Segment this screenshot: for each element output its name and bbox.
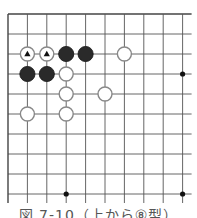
black-stone-body (78, 46, 93, 61)
white-stone-body (59, 87, 73, 101)
figure-caption: 図 7-10（上から⑧型） (0, 207, 197, 218)
star-point (64, 191, 69, 196)
black-stone (59, 46, 74, 61)
white-stone-body (117, 47, 131, 61)
star-point (180, 191, 185, 196)
white-stone-body (20, 107, 34, 121)
black-stone (78, 46, 93, 61)
white-stone (20, 107, 34, 121)
white-stone-body (59, 107, 73, 121)
white-stone-body (98, 87, 112, 101)
white-stone-body (59, 67, 73, 81)
white-stone (59, 67, 73, 81)
go-board (0, 0, 197, 218)
white-stone (59, 107, 73, 121)
white-stone (40, 47, 54, 61)
white-stone (20, 47, 34, 61)
stones (20, 46, 132, 121)
black-stone-body (39, 66, 54, 81)
white-stone (117, 47, 131, 61)
board-grid (8, 14, 192, 203)
black-stone-body (20, 66, 35, 81)
white-stone (98, 87, 112, 101)
star-point (180, 71, 185, 76)
black-stone (39, 66, 54, 81)
black-stone-body (59, 46, 74, 61)
white-stone (59, 87, 73, 101)
black-stone (20, 66, 35, 81)
